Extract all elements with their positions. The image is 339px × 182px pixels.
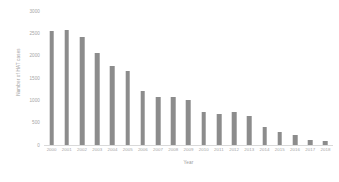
bar <box>186 100 191 145</box>
bar <box>171 97 176 145</box>
x-axis-line <box>44 145 333 146</box>
bar-chart-figure: Number of HAT cases 05001000150020002500… <box>0 0 339 182</box>
bar-slot <box>166 11 181 145</box>
bar-slot <box>257 11 272 145</box>
y-tick-label: 1500 <box>0 76 40 81</box>
bar-slot <box>120 11 135 145</box>
bar-slot <box>242 11 257 145</box>
bar <box>217 114 222 145</box>
bar-slot <box>211 11 226 145</box>
bar <box>80 37 85 145</box>
bar-slot <box>135 11 150 145</box>
bar-slot <box>181 11 196 145</box>
y-tick-label: 3000 <box>0 9 40 14</box>
bar-slot <box>303 11 318 145</box>
bar <box>125 71 130 145</box>
bar <box>262 127 267 145</box>
bar <box>49 31 54 145</box>
bar <box>247 116 252 145</box>
bar <box>277 132 282 145</box>
y-tick-label: 1000 <box>0 98 40 103</box>
y-tick-label: 0 <box>0 143 40 148</box>
bar <box>110 66 115 146</box>
bar <box>65 30 70 145</box>
bar <box>232 112 237 145</box>
x-axis-title: Year <box>44 160 333 165</box>
y-axis-tick-labels: 050010001500200025003000 <box>0 11 40 145</box>
bar-slot <box>318 11 333 145</box>
bar-series <box>44 11 333 145</box>
bar-slot <box>287 11 302 145</box>
bar <box>201 112 206 145</box>
bar-slot <box>59 11 74 145</box>
bar-slot <box>196 11 211 145</box>
bar-slot <box>272 11 287 145</box>
bar <box>141 91 146 145</box>
bar <box>293 135 298 145</box>
y-tick-label: 500 <box>0 120 40 125</box>
x-tick-label: 2018 <box>313 147 337 153</box>
bar-slot <box>105 11 120 145</box>
bar-slot <box>44 11 59 145</box>
bar-slot <box>74 11 89 145</box>
y-tick-label: 2000 <box>0 53 40 58</box>
y-tick-label: 2500 <box>0 31 40 36</box>
bar-slot <box>150 11 165 145</box>
bar-slot <box>227 11 242 145</box>
x-axis-tick-labels: 2000200120022003200420052006200720082009… <box>44 147 333 159</box>
bar <box>156 97 161 145</box>
bar <box>95 53 100 145</box>
bar-slot <box>90 11 105 145</box>
